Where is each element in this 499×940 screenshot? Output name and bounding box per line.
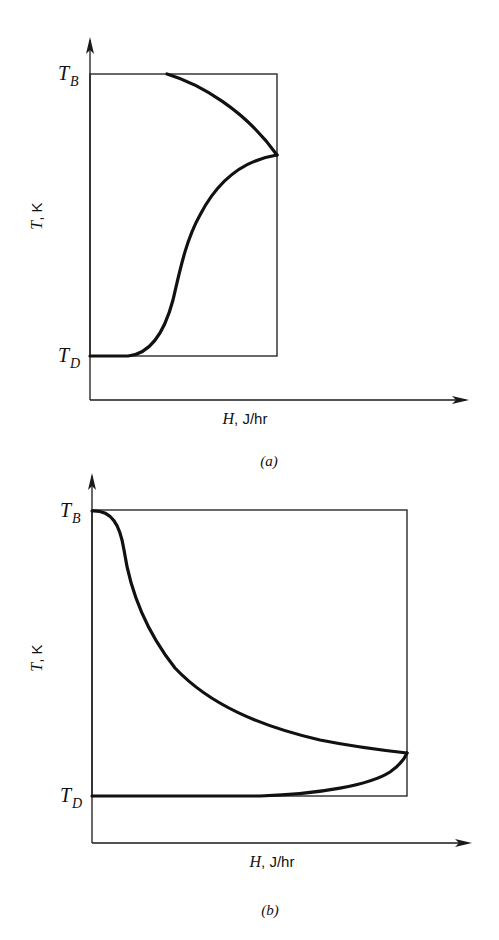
tick-label-tb-a: T B <box>58 62 79 89</box>
panel-b: T B T D T, K H, J/hr (b) <box>28 473 472 919</box>
bounding-box-b <box>92 510 407 796</box>
hot-stream-curve-b <box>92 511 407 753</box>
svg-text:T, K: T, K <box>28 644 45 671</box>
hot-stream-curve-a <box>167 74 277 155</box>
svg-text:D: D <box>69 356 80 371</box>
svg-text:T, K: T, K <box>28 202 45 229</box>
panel-a: T B T D T, K H, J/hr (a) <box>28 37 469 470</box>
y-axis-label-a: T, K <box>28 202 45 229</box>
cold-stream-curve-b <box>92 753 407 796</box>
tick-label-td-b: T D <box>60 784 82 811</box>
tick-label-td-a: T D <box>58 344 80 371</box>
caption-b: (b) <box>261 902 279 919</box>
tick-label-tb-b: T B <box>60 499 81 526</box>
cold-stream-curve-a <box>90 155 277 356</box>
svg-text:B: B <box>70 74 79 89</box>
bounding-box-a <box>90 74 277 356</box>
figure-canvas: T B T D T, K H, J/hr (a) <box>0 0 499 940</box>
x-axis-label-a: H, J/hr <box>222 410 268 427</box>
y-axis-label-b: T, K <box>28 644 45 671</box>
svg-text:B: B <box>72 511 81 526</box>
svg-text:D: D <box>71 796 82 811</box>
caption-a: (a) <box>260 453 278 470</box>
x-axis-label-b: H, J/hr <box>249 853 295 870</box>
